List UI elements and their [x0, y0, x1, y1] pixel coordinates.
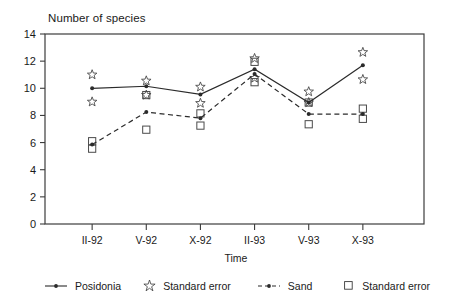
data-point-sand	[307, 112, 311, 116]
y-axis-tick-label: 8	[30, 109, 36, 121]
data-point-sand	[144, 110, 148, 114]
data-point-posidonia	[361, 63, 365, 67]
series-line-posidonia	[92, 65, 363, 102]
data-point-posidonia	[307, 101, 311, 105]
error-marker-square	[359, 105, 366, 112]
legend-item-posidonia: Posidonia	[44, 280, 121, 292]
error-marker-star	[196, 82, 206, 91]
data-point-sand	[361, 112, 365, 116]
plot-frame	[45, 34, 424, 224]
y-axis-tick-label: 14	[24, 28, 36, 40]
error-marker-star	[142, 76, 152, 85]
chart-legend: Posidonia Standard error Sand Standard e…	[44, 279, 444, 292]
data-point-sand	[253, 72, 257, 76]
x-axis-title: Time	[0, 252, 460, 264]
error-marker-star	[358, 74, 368, 83]
x-axis-tick-label: X-93	[352, 234, 374, 246]
data-point-posidonia	[198, 92, 202, 96]
error-marker-square	[143, 126, 150, 133]
error-marker-star	[196, 98, 206, 107]
y-axis-tick-label: 10	[24, 82, 36, 94]
error-marker-star	[358, 47, 368, 56]
error-marker-square	[359, 115, 366, 122]
data-point-sand	[90, 143, 94, 147]
y-axis-tick-label: 0	[30, 218, 36, 230]
legend-label-posidonia: Posidonia	[75, 280, 121, 292]
legend-label-sand: Sand	[288, 280, 313, 292]
legend-item-posidonia-error: Standard error	[143, 279, 231, 292]
legend-item-sand: Sand	[257, 280, 313, 292]
error-marker-square	[305, 121, 312, 128]
error-marker-star	[87, 97, 97, 106]
data-point-posidonia	[253, 67, 257, 71]
square-outline-icon	[342, 279, 355, 292]
dashed-line-dot-icon	[257, 280, 281, 292]
data-point-posidonia	[90, 86, 94, 90]
error-marker-square	[197, 122, 204, 129]
x-axis-tick-label: V-93	[298, 234, 320, 246]
legend-label-sand-error: Standard error	[362, 280, 430, 292]
x-axis-tick-label: V-92	[135, 234, 157, 246]
legend-label-posidonia-error: Standard error	[163, 280, 231, 292]
y-axis-tick-label: 2	[30, 191, 36, 203]
error-marker-star	[304, 87, 314, 96]
star-outline-icon	[143, 279, 156, 292]
x-axis-tick-label: II-92	[82, 234, 103, 246]
data-point-posidonia	[144, 84, 148, 88]
solid-line-dot-icon	[44, 280, 68, 292]
y-axis-tick-label: 12	[24, 55, 36, 67]
data-point-sand	[198, 116, 202, 120]
x-axis-tick-label: II-93	[244, 234, 265, 246]
legend-item-sand-error: Standard error	[342, 279, 430, 292]
y-axis-tick-label: 6	[30, 137, 36, 149]
error-marker-star	[87, 70, 97, 79]
x-axis-title-text: Time	[213, 252, 248, 264]
y-axis-tick-label: 4	[30, 164, 36, 176]
series-line-sand	[92, 74, 363, 145]
x-axis-tick-label: X-92	[189, 234, 211, 246]
chart-figure: Number of species 02468101214II-92V-92X-…	[0, 0, 460, 305]
